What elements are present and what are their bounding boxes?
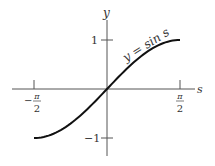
x-tick-right-den: 2 — [177, 103, 183, 114]
chart-canvas: y s 1 −1 − π 2 π 2 y = sin s — [0, 0, 215, 166]
x-axis-label: s — [197, 83, 203, 96]
sine-chart: y s 1 −1 − π 2 π 2 y = sin s — [0, 0, 215, 166]
y-tick-label-bottom: −1 — [84, 132, 100, 145]
x-tick-left-den: 2 — [34, 103, 40, 114]
curve-label: y = sin s — [119, 25, 172, 65]
x-tick-left-sign: − — [24, 95, 32, 106]
y-tick-label-top: 1 — [91, 34, 98, 47]
x-tick-left-num: π — [33, 92, 40, 101]
x-tick-right-num: π — [176, 92, 183, 101]
y-axis-label: y — [102, 6, 110, 20]
